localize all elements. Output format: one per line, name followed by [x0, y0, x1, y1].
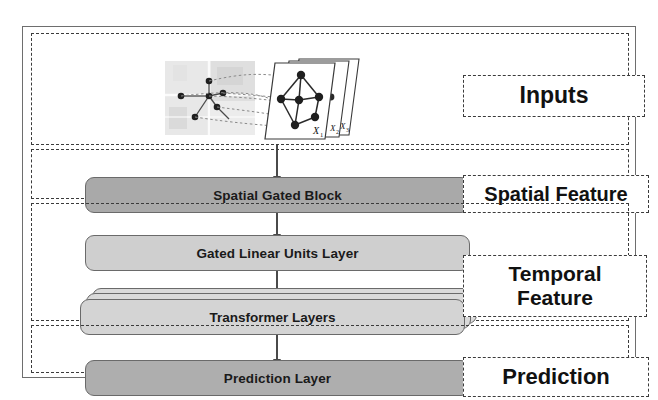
stage-label-spatial-feature-text: Spatial Feature — [484, 183, 627, 205]
svg-text:3: 3 — [346, 127, 349, 133]
block-transformer-layers-label: Transformer Layers — [209, 310, 335, 325]
block-prediction-layer[interactable]: Prediction Layer — [85, 360, 470, 396]
graph-snapshot-1: X 1 — [265, 63, 335, 139]
stage-label-temporal-feature-line1: Temporal — [509, 262, 602, 286]
svg-text:X: X — [312, 125, 320, 136]
stage-label-prediction: Prediction — [463, 357, 649, 397]
block-gated-linear-units-layer-label: Gated Linear Units Layer — [196, 246, 358, 261]
graph-snapshot-stack: X 3 X 2 — [265, 59, 359, 139]
figure-frame: X 3 X 2 — [22, 26, 636, 378]
stage-label-inputs-text: Inputs — [520, 83, 589, 109]
svg-text:X: X — [329, 123, 336, 133]
block-gated-linear-units-layer[interactable]: Gated Linear Units Layer — [85, 235, 470, 271]
block-spatial-gated-block-label: Spatial Gated Block — [213, 188, 342, 203]
svg-text:2: 2 — [336, 129, 339, 135]
stage-label-prediction-text: Prediction — [502, 365, 610, 390]
stage-label-temporal-feature-line2: Feature — [517, 286, 593, 310]
input-illustration: X 3 X 2 — [143, 55, 383, 143]
block-prediction-layer-label: Prediction Layer — [224, 371, 331, 386]
stage-label-inputs: Inputs — [463, 75, 645, 117]
svg-text:1: 1 — [320, 131, 323, 138]
stage-label-temporal-feature: Temporal Feature — [463, 255, 647, 317]
